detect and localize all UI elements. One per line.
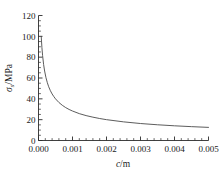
- y-tick-label: 20: [27, 115, 37, 125]
- y-axis-title: σs/MPa: [4, 63, 15, 92]
- x-axis-title: c/m: [116, 159, 131, 169]
- x-axis-tick-labels: 0.0000.0010.0020.0030.0040.005: [28, 144, 219, 154]
- x-tick-label: 0.001: [62, 144, 82, 154]
- y-tick-label: 40: [27, 94, 37, 104]
- y-axis-tick-labels: 020406080100120: [22, 11, 36, 146]
- chart-figure: 020406080100120 0.0000.0010.0020.0030.00…: [0, 0, 221, 173]
- x-tick-label: 0.003: [130, 144, 151, 154]
- x-tick-label: 0.005: [198, 144, 219, 154]
- data-curve: [41, 36, 208, 127]
- x-tick-label: 0.000: [28, 144, 49, 154]
- x-tick-label: 0.004: [164, 144, 185, 154]
- x-tick-label: 0.002: [96, 144, 116, 154]
- y-tick-label: 60: [27, 73, 37, 83]
- y-axis-major-ticks: [39, 16, 43, 141]
- y-tick-label: 80: [27, 52, 37, 62]
- plot-area: 020406080100120 0.0000.0010.0020.0030.00…: [0, 0, 221, 173]
- y-tick-label: 120: [22, 11, 36, 21]
- x-axis-major-ticks: [39, 137, 209, 141]
- y-tick-label: 100: [22, 32, 36, 42]
